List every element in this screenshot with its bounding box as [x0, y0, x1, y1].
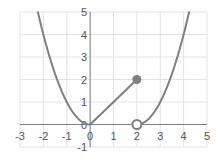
- x-tick-label: -1: [62, 130, 72, 142]
- y-tick-label: 5: [81, 6, 87, 18]
- closed-point: [132, 75, 141, 84]
- y-tick-label: 3: [81, 51, 87, 63]
- open-point: [132, 120, 141, 129]
- y-tick-label: 4: [81, 29, 87, 41]
- x-tick-label: 1: [110, 130, 116, 142]
- y-tick-label: 2: [81, 74, 87, 86]
- x-tick-label: 4: [181, 130, 187, 142]
- x-tick-label: 0: [87, 130, 93, 142]
- chart: -3-2-1012345-1012345: [0, 0, 217, 157]
- x-tick-label: -3: [15, 130, 25, 142]
- x-tick-label: 2: [134, 130, 140, 142]
- y-tick-label: 1: [81, 96, 87, 108]
- x-tick-label: 3: [157, 130, 163, 142]
- x-tick-label: 5: [204, 130, 210, 142]
- y-tick-label: -1: [77, 141, 87, 153]
- x-tick-label: -2: [38, 130, 48, 142]
- series-line: [137, 12, 189, 125]
